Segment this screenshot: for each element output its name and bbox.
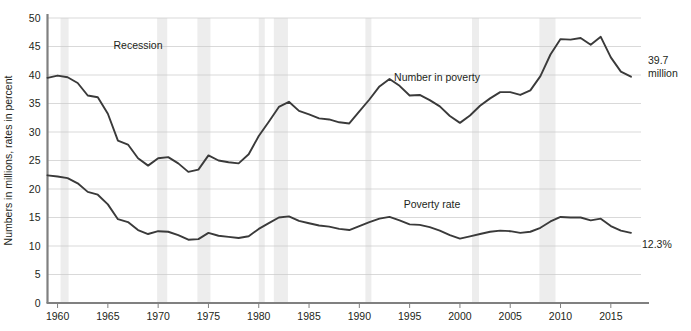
x-tick-label-1985: 1985 [297,310,321,322]
y-tick-label-10: 10 [29,240,41,252]
y-tick-label-35: 35 [29,97,41,109]
chart-background [0,0,691,331]
x-tick-label-1970: 1970 [146,310,170,322]
x-tick-label-2000: 2000 [448,310,472,322]
series-label-poverty-rate: Poverty rate [404,198,461,210]
x-tick-label-1975: 1975 [197,310,221,322]
x-tick-label-2015: 2015 [599,310,623,322]
y-tick-label-0: 0 [35,297,41,309]
y-tick-label-20: 20 [29,183,41,195]
y-tick-label-25: 25 [29,154,41,166]
y-tick-label-30: 30 [29,126,41,138]
y-tick-label-5: 5 [35,268,41,280]
y-tick-label-40: 40 [29,69,41,81]
x-tick-label-1995: 1995 [398,310,422,322]
x-tick-label-1960: 1960 [46,310,70,322]
end-annotation-line-1: million [648,67,678,79]
series-label-number-in-poverty: Number in poverty [394,71,481,83]
chart-canvas: 05101520253035404550 1960196519701975198… [0,0,691,331]
end-annotation-poverty-rate: 12.3% [642,238,672,250]
x-tick-label-1965: 1965 [96,310,120,322]
y-tick-label-45: 45 [29,40,41,52]
recession-legend-label: Recession [113,39,162,51]
y-tick-label-50: 50 [29,12,41,24]
x-tick-label-1980: 1980 [247,310,271,322]
x-tick-label-2005: 2005 [499,310,523,322]
x-tick-label-2010: 2010 [549,310,573,322]
end-annotation-line-0: 39.7 [648,54,669,66]
poverty-chart: 05101520253035404550 1960196519701975198… [0,0,691,331]
x-tick-label-1990: 1990 [348,310,372,322]
y-tick-label-15: 15 [29,211,41,223]
y-axis-title: Numbers in millions, rates in percent [2,76,14,246]
